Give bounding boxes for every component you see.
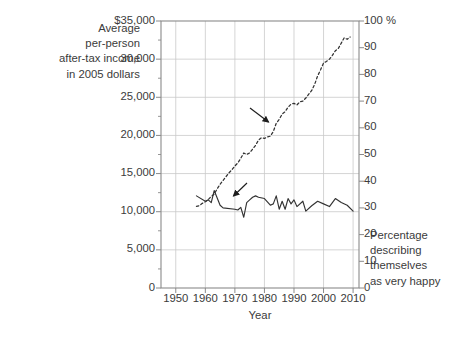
y-axis-left-tick-label: 15,000 [93,166,155,178]
y-axis-left-tick-label: 5,000 [93,242,155,254]
y-axis-left-tick-label: 20,000 [93,128,155,140]
y-axis-left-tick-label: 10,000 [93,204,155,216]
y-axis-left-tick-label: 0 [93,281,155,293]
y-axis-right-tick-label: 10 [364,254,404,266]
y-axis-left-tick-label: 30,000 [93,52,155,64]
y-axis-right-tick-label: 90 [364,40,404,52]
y-axis-right-tick-label: 60 [364,120,404,132]
y-axis-left-tick-label: 25,000 [93,90,155,102]
y-axis-right-tick-label: 100 % [364,14,404,26]
y-axis-right-tick-label: 50 [364,147,404,159]
y-axis-right-tick-label: 20 [364,227,404,239]
y-axis-left-tick-label: $35,000 [93,14,155,26]
y-axis-right-tick-label: 80 [364,67,404,79]
y-axis-right-tick-label: 70 [364,94,404,106]
y-axis-right-tick-label: 40 [364,174,404,186]
y-axis-right-tick-label: 0 [364,281,404,293]
x-axis-tick-label: 2010 [335,292,371,304]
y-axis-right-tick-label: 30 [364,200,404,212]
chart-figure: Average per-person after-tax income in 2… [0,0,465,338]
plot-background [161,21,359,288]
